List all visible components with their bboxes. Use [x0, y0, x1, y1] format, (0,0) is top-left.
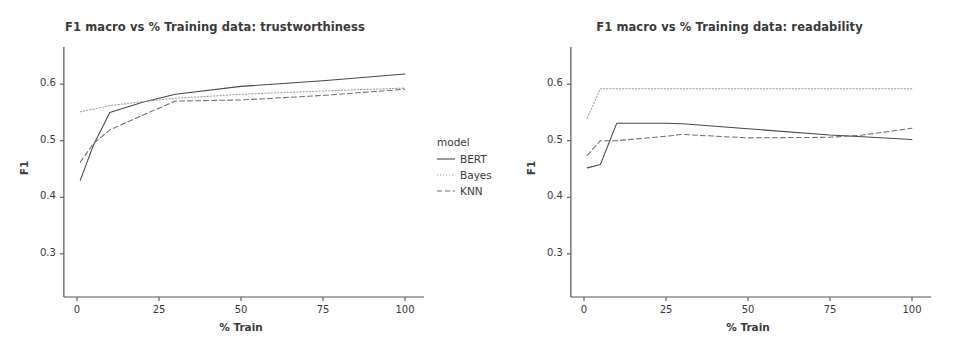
y-tick-label: 0.3: [527, 247, 563, 258]
x-tick-label: 0: [57, 304, 97, 315]
legend-item-bert[interactable]: BERT: [437, 151, 503, 167]
series-line-knn: [80, 89, 405, 162]
legend-line-dashed-icon: [437, 186, 455, 196]
x-tick-label: 0: [564, 304, 604, 315]
x-axis-label: % Train: [571, 321, 925, 333]
legend-title: model: [437, 136, 503, 148]
series-line-bert: [80, 74, 405, 180]
x-axis-label: % Train: [64, 321, 418, 333]
legend-label-knn: KNN: [460, 185, 483, 197]
legend-line-dotted-icon: [437, 170, 455, 180]
y-tick-label: 0.6: [20, 77, 56, 88]
x-tick-label: 25: [646, 304, 686, 315]
legend-label-bert: BERT: [460, 153, 487, 165]
legend-item-knn[interactable]: KNN: [437, 183, 503, 199]
y-axis-label: F1: [525, 138, 537, 198]
x-tick-label: 50: [221, 304, 261, 315]
plot-area-trustworthiness: [0, 0, 430, 349]
x-tick-label: 100: [385, 304, 425, 315]
series-line-bayes: [80, 88, 405, 112]
x-tick-label: 50: [728, 304, 768, 315]
legend-item-bayes[interactable]: Bayes: [437, 167, 503, 183]
y-tick-label: 0.6: [527, 77, 563, 88]
figure-canvas: F1 macro vs % Training data: trustworthi…: [0, 0, 954, 349]
legend-line-solid-icon: [437, 154, 455, 164]
series-line-bayes: [587, 89, 912, 118]
chart-panel-readability: F1 macro vs % Training data: readability…: [505, 0, 954, 349]
chart-panel-trustworthiness: F1 macro vs % Training data: trustworthi…: [0, 0, 430, 349]
y-tick-label: 0.3: [20, 247, 56, 258]
x-tick-label: 75: [303, 304, 343, 315]
legend: model BERT Bayes KNN: [437, 136, 503, 199]
plot-area-readability: [505, 0, 954, 349]
x-tick-label: 75: [810, 304, 850, 315]
series-line-bert: [587, 123, 912, 168]
series-line-knn: [587, 128, 912, 155]
legend-label-bayes: Bayes: [460, 169, 492, 181]
y-axis-label: F1: [18, 138, 30, 198]
x-tick-label: 100: [892, 304, 932, 315]
x-tick-label: 25: [139, 304, 179, 315]
